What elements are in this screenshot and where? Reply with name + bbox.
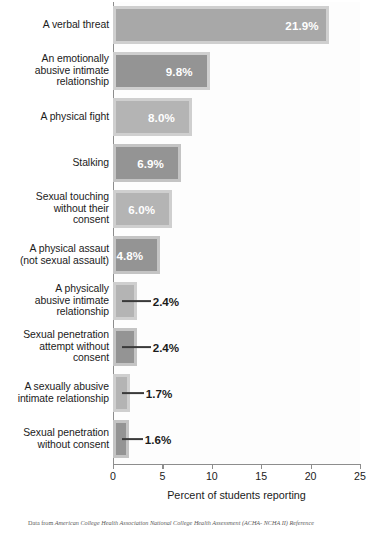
x-axis-tick — [261, 464, 262, 469]
bar-value-label: 1.7% — [146, 387, 172, 400]
bar-category-label: A verbal threat — [0, 19, 109, 31]
value-leader-line — [122, 300, 151, 302]
bar-category-label: A physical fight — [0, 111, 109, 123]
x-axis-tick — [162, 464, 163, 469]
bar-category-label: Stalking — [0, 157, 109, 169]
source-note-prefix: Data from — [28, 519, 55, 526]
bar-row: A physical assaut(not sexual assault)4.8… — [0, 232, 373, 278]
x-axis-tick-label: 15 — [255, 470, 267, 482]
bar-category-label: A physical assaut(not sexual assault) — [0, 243, 109, 266]
bar-category-label: A sexually abusiveintimate relationship — [0, 381, 109, 404]
bar-value-label: 2.4% — [153, 295, 179, 308]
bar-row: Stalking6.9% — [0, 140, 373, 186]
x-axis-tick — [212, 464, 213, 469]
value-leader-line — [122, 392, 144, 394]
bar-row: Sexual penetrationwithout consent1.6% — [0, 416, 373, 462]
value-leader-line — [122, 438, 143, 440]
x-axis-tick-label: 20 — [305, 470, 317, 482]
bar-category-label: An emotionallyabusive intimaterelationsh… — [0, 53, 109, 88]
bar-category-label: Sexual touchingwithout theirconsent — [0, 191, 109, 226]
bar-value-label: 1.6% — [145, 433, 171, 446]
bar-category-label: A physicallyabusive intimaterelationship — [0, 283, 109, 318]
source-note-citation: American College Health Association Nati… — [55, 519, 314, 526]
bar-row: A physical fight8.0% — [0, 94, 373, 140]
x-axis-tick — [311, 464, 312, 469]
bar-row: A sexually abusiveintimate relationship1… — [0, 370, 373, 416]
x-axis-tick — [113, 464, 114, 469]
bar-row: An emotionallyabusive intimaterelationsh… — [0, 48, 373, 94]
bar-value-label: 4.8% — [116, 249, 143, 262]
bar — [113, 52, 210, 90]
bar-value-label: 2.4% — [153, 341, 179, 354]
bar-category-label: Sexual penetrationwithout consent — [0, 427, 109, 450]
bar-row: Sexual touchingwithout theirconsent6.0% — [0, 186, 373, 232]
x-axis-tick — [360, 464, 361, 469]
x-axis-tick-label: 0 — [110, 470, 116, 482]
bar-value-label: 6.0% — [128, 203, 155, 216]
x-axis-title: Percent of students reporting — [113, 489, 360, 501]
x-axis-line — [113, 464, 360, 465]
x-axis-tick-label: 25 — [354, 470, 366, 482]
bar-value-label: 6.9% — [137, 157, 164, 170]
source-note: Data from American College Health Associ… — [28, 519, 368, 527]
x-axis-tick-label: 10 — [206, 470, 218, 482]
bar-fill — [116, 55, 207, 87]
value-leader-line — [122, 346, 151, 348]
bar-value-label: 21.9% — [285, 19, 318, 32]
bar-category-label: Sexual penetrationattempt withoutconsent — [0, 329, 109, 364]
bar-row: A physicallyabusive intimaterelationship… — [0, 278, 373, 324]
bar-chart: A verbal threat21.9%An emotionallyabusiv… — [0, 0, 373, 540]
x-axis-tick-label: 5 — [159, 470, 165, 482]
bar-row: A verbal threat21.9% — [0, 2, 373, 48]
bar-value-label: 8.0% — [148, 111, 175, 124]
bar-value-label: 9.8% — [166, 65, 193, 78]
bar-row: Sexual penetrationattempt withoutconsent… — [0, 324, 373, 370]
